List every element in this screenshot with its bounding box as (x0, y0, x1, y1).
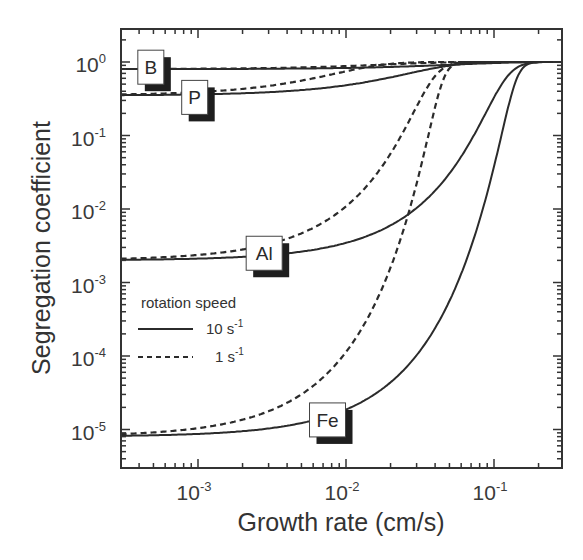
svg-text:10-3: 10-3 (177, 479, 212, 504)
svg-text:10-1: 10-1 (71, 125, 106, 150)
svg-text:10-4: 10-4 (71, 345, 106, 370)
y-axis-title: Segregation coefficient (27, 121, 55, 375)
label-al: Al (246, 236, 289, 277)
svg-text:Al: Al (256, 243, 273, 264)
label-b: B (138, 50, 171, 91)
label-p: P (182, 80, 215, 121)
svg-text:10-2: 10-2 (325, 479, 360, 504)
curve-fe-solid (121, 62, 575, 436)
x-axis-title: Growth rate (cm/s) (238, 508, 445, 536)
svg-text:10-5: 10-5 (71, 419, 106, 444)
svg-text:P: P (188, 87, 201, 108)
plot-curves (121, 62, 575, 436)
svg-text:10-2: 10-2 (71, 198, 106, 223)
svg-text:10 s-1: 10 s-1 (206, 318, 244, 337)
segregation-chart: BPAlFe 10-310-210-110010-110-210-310-410… (0, 0, 583, 560)
svg-text:1 s-1: 1 s-1 (215, 346, 244, 365)
svg-text:B: B (144, 57, 157, 78)
svg-text:rotation speed: rotation speed (141, 294, 236, 311)
legend: rotation speed10 s-11 s-1 (138, 294, 244, 365)
svg-text:100: 100 (75, 51, 106, 76)
svg-text:Fe: Fe (316, 410, 338, 431)
svg-text:10-3: 10-3 (71, 272, 106, 297)
svg-text:10-1: 10-1 (473, 479, 508, 504)
element-labels: BPAlFe (138, 50, 353, 444)
